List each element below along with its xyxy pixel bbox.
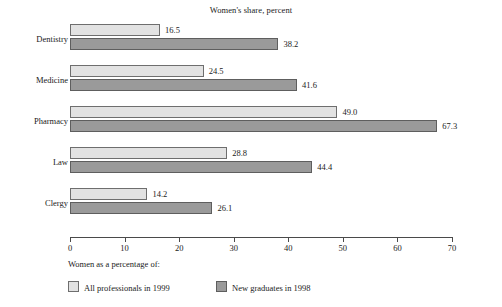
bar-medicine-series1 xyxy=(70,79,297,91)
chart-legend: All professionals in 1999New graduates i… xyxy=(68,277,468,291)
legend-swatch-icon xyxy=(216,281,227,292)
x-axis-tick-label: 70 xyxy=(448,243,457,254)
x-axis-tick xyxy=(125,237,126,242)
category-label-dentistry: Dentistry xyxy=(0,31,68,47)
bar-group: Medicine24.541.6 xyxy=(0,65,502,95)
bar-row: 67.3 xyxy=(70,120,452,132)
x-axis-tick xyxy=(452,237,453,242)
category-label-clergy: Clergy xyxy=(0,195,68,211)
bar-dentistry-series0 xyxy=(70,24,160,36)
x-axis-tick xyxy=(343,237,344,242)
x-axis-tick-label: 40 xyxy=(284,243,293,254)
bar-value-label: 44.4 xyxy=(317,162,332,173)
bar-value-label: 67.3 xyxy=(442,121,457,132)
bar-value-label: 14.2 xyxy=(152,189,167,200)
bar-row: 38.2 xyxy=(70,38,452,50)
category-label-pharmacy: Pharmacy xyxy=(0,113,68,129)
legend-label: New graduates in 1998 xyxy=(232,283,311,293)
x-axis-tick-label: 10 xyxy=(120,243,129,254)
bar-row: 24.5 xyxy=(70,65,452,77)
bar-value-label: 41.6 xyxy=(302,80,317,91)
bar-value-label: 49.0 xyxy=(342,107,357,118)
x-axis-tick xyxy=(288,237,289,242)
bar-value-label: 28.8 xyxy=(232,148,247,159)
legend-swatch-icon xyxy=(68,281,79,292)
bar-value-label: 16.5 xyxy=(165,25,180,36)
bar-chart: Women's share, percent Dentistry16.538.2… xyxy=(0,0,502,307)
bar-row: 49.0 xyxy=(70,106,452,118)
legend-label: All professionals in 1999 xyxy=(84,283,170,293)
bar-clergy-series1 xyxy=(70,202,212,214)
bar-row: 28.8 xyxy=(70,147,452,159)
x-axis-tick-label: 30 xyxy=(229,243,238,254)
bar-row: 14.2 xyxy=(70,188,452,200)
x-axis-tick-label: 60 xyxy=(393,243,402,254)
x-axis-tick xyxy=(234,237,235,242)
x-axis-tick-label: 0 xyxy=(68,243,72,254)
x-axis-tick xyxy=(70,237,71,242)
x-axis-tick-label: 20 xyxy=(175,243,184,254)
bar-clergy-series0 xyxy=(70,188,147,200)
category-label-law: Law xyxy=(0,154,68,170)
bar-pharmacy-series0 xyxy=(70,106,337,118)
bar-law-series0 xyxy=(70,147,227,159)
legend-item-0[interactable]: All professionals in 1999 xyxy=(68,277,170,291)
bar-group: Dentistry16.538.2 xyxy=(0,24,502,54)
bar-group: Pharmacy49.067.3 xyxy=(0,106,502,136)
bar-value-label: 38.2 xyxy=(283,39,298,50)
x-axis-tick xyxy=(179,237,180,242)
x-axis-tick-label: 50 xyxy=(339,243,348,254)
bar-row: 16.5 xyxy=(70,24,452,36)
legend-title: Women as a percentage of: xyxy=(68,259,160,270)
x-axis-tick xyxy=(397,237,398,242)
bar-dentistry-series1 xyxy=(70,38,278,50)
category-label-medicine: Medicine xyxy=(0,72,68,88)
bar-group: Law28.844.4 xyxy=(0,147,502,177)
bar-value-label: 26.1 xyxy=(217,203,232,214)
bar-row: 41.6 xyxy=(70,79,452,91)
bar-row: 44.4 xyxy=(70,161,452,173)
bar-group: Clergy14.226.1 xyxy=(0,188,502,218)
bar-medicine-series0 xyxy=(70,65,204,77)
bar-value-label: 24.5 xyxy=(209,66,224,77)
bar-pharmacy-series1 xyxy=(70,120,437,132)
legend-item-1[interactable]: New graduates in 1998 xyxy=(216,277,311,291)
bar-law-series1 xyxy=(70,161,312,173)
bar-row: 26.1 xyxy=(70,202,452,214)
x-axis-line xyxy=(70,237,452,238)
